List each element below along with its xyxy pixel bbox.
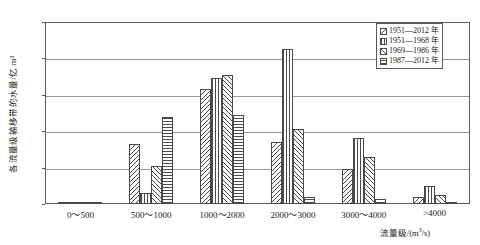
legend-swatch-icon <box>380 28 387 35</box>
legend-swatch-icon <box>380 38 387 45</box>
bar[interactable] <box>446 202 457 204</box>
x-axis-title: 流量级/(m3/s) <box>330 226 480 238</box>
bar[interactable] <box>342 169 353 204</box>
legend-label: 1951—2012 年 <box>389 27 439 35</box>
bar[interactable] <box>353 138 364 204</box>
legend-swatch-icon <box>380 48 387 55</box>
legend-swatch-icon <box>380 58 387 65</box>
x-axis-title-tail: /s) <box>422 228 431 238</box>
x-tick-label: 3000～4000 <box>328 208 399 221</box>
bar-group <box>258 22 329 204</box>
x-tick-label: >4000 <box>399 208 470 218</box>
bar-set <box>45 22 116 204</box>
bar[interactable] <box>424 186 435 204</box>
bar[interactable] <box>413 197 424 204</box>
bar[interactable] <box>233 115 244 204</box>
y-tick-mark <box>42 204 45 205</box>
bar[interactable] <box>162 117 173 204</box>
legend-item[interactable]: 1987—2012 年 <box>380 56 439 66</box>
bar-set <box>187 22 258 204</box>
bar[interactable] <box>271 142 282 204</box>
bar-group <box>116 22 187 204</box>
legend-item[interactable]: 1951—2012 年 <box>380 26 439 36</box>
bar[interactable] <box>293 129 304 204</box>
bar[interactable] <box>211 78 222 204</box>
bar[interactable] <box>304 197 315 204</box>
bar[interactable] <box>364 157 375 204</box>
x-tick-label: 0～500 <box>45 208 116 221</box>
bar-group <box>45 22 116 204</box>
bar[interactable] <box>282 49 293 204</box>
x-axis-title-text: 流量级/(m <box>380 228 419 238</box>
legend-label: 1951—1968 年 <box>389 37 439 45</box>
bar-set <box>116 22 187 204</box>
chart-container: 各流量级输移带的水量/亿 m³ 020406080100 0～500500～10… <box>0 0 480 245</box>
x-tick-label: 1000～2000 <box>187 208 258 221</box>
bar[interactable] <box>69 202 80 204</box>
bar[interactable] <box>151 166 162 204</box>
x-tick-label: 2000～3000 <box>258 208 329 221</box>
bar[interactable] <box>80 202 91 204</box>
legend-label: 1969—1986 年 <box>389 47 439 55</box>
legend: 1951—2012 年1951—1968 年1969—1986 年1987—20… <box>376 23 443 69</box>
legend-label: 1987—2012 年 <box>389 57 439 65</box>
legend-item[interactable]: 1951—1968 年 <box>380 36 439 46</box>
y-axis-title: 各流量级输移带的水量/亿 m³ <box>6 14 18 214</box>
bar-set <box>258 22 329 204</box>
bar[interactable] <box>58 202 69 204</box>
bar[interactable] <box>129 144 140 204</box>
x-tick-label: 500～1000 <box>116 208 187 221</box>
bar[interactable] <box>375 199 386 204</box>
bar[interactable] <box>200 89 211 204</box>
bar-group <box>187 22 258 204</box>
bar[interactable] <box>140 193 151 204</box>
bar[interactable] <box>435 195 446 204</box>
legend-item[interactable]: 1969—1986 年 <box>380 46 439 56</box>
bar[interactable] <box>91 202 102 204</box>
bar[interactable] <box>222 75 233 204</box>
